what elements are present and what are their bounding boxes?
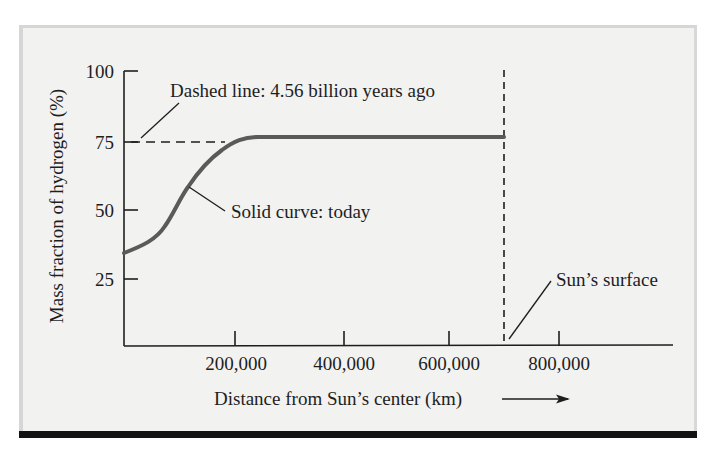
solid-curve-today [124, 137, 504, 253]
x-axis: 200,000 400,000 600,000 800,000 Distance… [124, 331, 673, 410]
x-tick-label-400000: 400,000 [313, 353, 375, 374]
right-arrow-icon [502, 395, 570, 404]
y-tick-label-100: 100 [86, 61, 115, 82]
annotation-dashed: Dashed line: 4.56 billion years ago [141, 80, 435, 138]
x-tick-label-200000: 200,000 [205, 353, 267, 374]
x-tick-label-800000: 800,000 [528, 353, 590, 374]
hydrogen-fraction-chart: 100 75 50 25 Mass fraction of hydrogen (… [0, 0, 715, 461]
x-tick-label-600000: 600,000 [418, 353, 480, 374]
annotation-solid-text: Solid curve: today [231, 201, 371, 222]
annotation-surface-text: Sun’s surface [556, 269, 658, 290]
y-axis-title: Mass fraction of hydrogen (%) [46, 89, 68, 323]
y-tick-label-25: 25 [95, 269, 114, 290]
annotation-dashed-text: Dashed line: 4.56 billion years ago [170, 80, 435, 101]
y-axis: 100 75 50 25 Mass fraction of hydrogen (… [46, 61, 138, 346]
annotation-surface: Sun’s surface [509, 269, 658, 339]
annotation-solid: Solid curve: today [189, 187, 371, 222]
x-axis-title: Distance from Sun’s center (km) [214, 388, 462, 410]
y-tick-label-75: 75 [95, 132, 114, 153]
y-tick-label-50: 50 [95, 200, 114, 221]
